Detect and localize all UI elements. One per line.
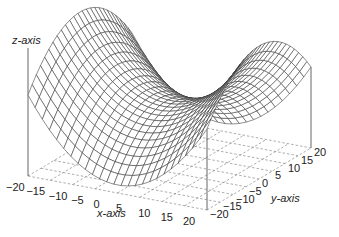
y-tick-label: 0 [262, 178, 268, 189]
y-tick-label: 15 [301, 155, 313, 166]
y-tick-label: −5 [249, 186, 262, 197]
x-tick-label: −15 [26, 186, 45, 197]
y-tick-label: 20 [314, 147, 326, 158]
saddle-surface-mesh [28, 7, 311, 186]
y-tick-label: 10 [288, 163, 300, 174]
z-axis-label: z-axis [12, 35, 41, 46]
x-tick-label: 10 [138, 208, 150, 219]
x-tick-label: 20 [183, 216, 195, 227]
x-axis-label: x-axis [97, 208, 126, 219]
y-axis-label: y-axis [271, 193, 300, 204]
y-tick-label: 5 [275, 170, 281, 181]
x-tick-label: 15 [161, 212, 173, 223]
x-tick-label: −10 [49, 191, 68, 202]
x-tick-label: −20 [6, 182, 25, 193]
x-tick-label: −5 [71, 195, 84, 206]
